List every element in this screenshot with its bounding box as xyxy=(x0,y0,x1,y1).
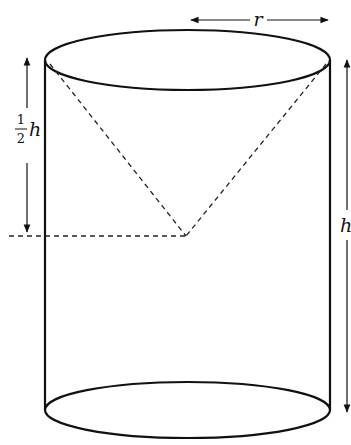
diagram-canvas: r 1 2 h h xyxy=(0,0,351,445)
half-height-denominator: 2 xyxy=(17,131,25,146)
half-height-variable: h xyxy=(29,118,41,140)
radius-label: r xyxy=(253,8,264,30)
cylinder-bottom-ellipse xyxy=(45,382,330,438)
cylinder-top-ellipse xyxy=(45,30,330,90)
height-label: h xyxy=(340,214,351,236)
half-height-numerator: 1 xyxy=(17,112,25,127)
